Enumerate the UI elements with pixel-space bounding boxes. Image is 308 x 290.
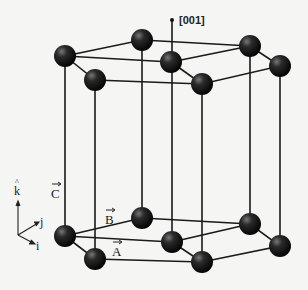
axis-i-label: i: [36, 239, 40, 253]
coordinate-axes: [16, 201, 39, 244]
axis-j-label: j: [39, 215, 43, 229]
direction-label: [001]: [179, 14, 205, 26]
lattice-svg: [001] C B A k: [0, 0, 308, 290]
vector-a: A: [112, 240, 122, 259]
vector-b: B: [105, 208, 115, 227]
vector-a-label: A: [112, 244, 122, 259]
vector-c: C: [51, 182, 61, 201]
k-hat: ^: [15, 178, 19, 187]
vector-c-label: C: [51, 186, 60, 201]
vector-b-label: B: [105, 212, 114, 227]
direction-marker: [170, 18, 174, 22]
hcp-lattice-diagram: [001] C B A k: [0, 0, 308, 290]
